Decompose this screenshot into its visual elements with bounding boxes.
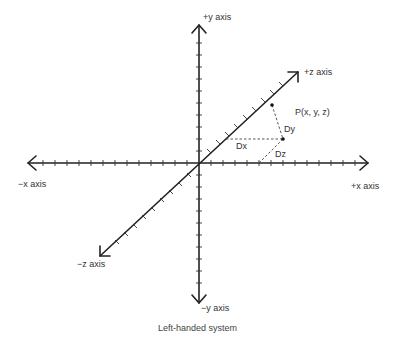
axes-graphic	[0, 0, 393, 348]
coordinate-system-diagram: +y axis −y axis +x axis −x axis +z axis …	[0, 0, 393, 348]
neg-z-axis-label: −z axis	[77, 260, 105, 269]
pos-z-axis-label: +z axis	[304, 68, 332, 77]
dy-label: Dy	[284, 125, 295, 134]
point-p-label: P(x, y, z)	[295, 108, 330, 117]
dx-label: Dx	[236, 142, 247, 151]
dy-dashed-line	[272, 105, 283, 139]
point-p-marker	[270, 103, 274, 107]
diagram-caption: Left-handed system	[158, 324, 237, 333]
neg-y-axis-label: −y axis	[201, 304, 229, 313]
pos-x-axis-label: +x axis	[351, 182, 379, 191]
projection-point-marker	[281, 137, 285, 141]
dz-label: Dz	[275, 150, 286, 159]
neg-x-axis-label: −x axis	[18, 180, 46, 189]
pos-y-axis-label: +y axis	[203, 13, 231, 22]
